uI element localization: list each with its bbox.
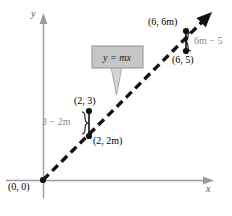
figure-canvas	[0, 0, 232, 216]
point-label-6-5: (6, 5)	[172, 55, 194, 65]
point-2-3-dot	[86, 108, 92, 114]
y-axis-arrowhead	[40, 13, 48, 24]
brace-left-glyph	[82, 112, 88, 134]
point-label-6-6m: (6, 6m)	[148, 17, 177, 27]
brace-label-right: 6m − 5	[194, 36, 222, 46]
point-label-origin: (0, 0)	[8, 182, 30, 192]
callout-label: y = mx	[103, 52, 131, 63]
brace-label-left: 3 − 2m	[42, 117, 70, 127]
y-axis-label: y	[31, 9, 35, 19]
coordinate-plane-figure: y x y = mx (0, 0) (2, 2m) (2, 3) (6, 6m)…	[0, 0, 232, 216]
line-arrowhead	[197, 12, 213, 27]
point-2-2m-dot	[86, 133, 92, 139]
x-axis-label: x	[206, 184, 210, 194]
callout-pointer	[111, 67, 122, 95]
point-label-2-3: (2, 3)	[74, 96, 96, 106]
line-y-equals-mx	[43, 19, 205, 180]
point-origin-dot	[40, 177, 46, 183]
point-label-2-2m: (2, 2m)	[93, 136, 122, 146]
